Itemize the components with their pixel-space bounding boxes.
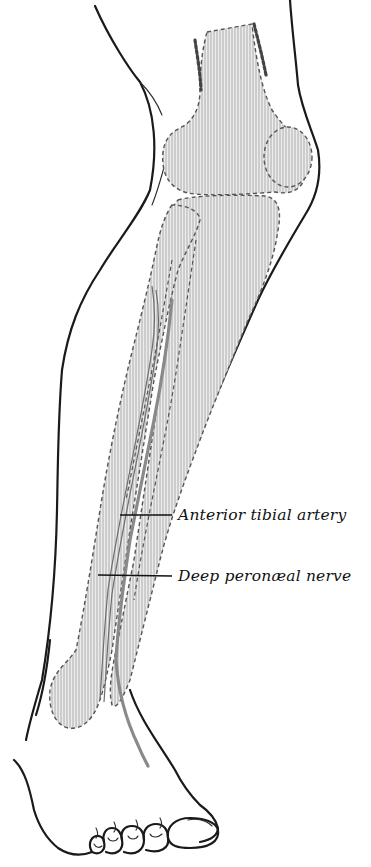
toes xyxy=(90,818,218,853)
leg-illustration xyxy=(0,0,371,867)
label-anterior-tibial-artery: Anterior tibial artery xyxy=(178,506,346,524)
leader-deep-peroneal-nerve xyxy=(98,575,172,576)
label-deep-peroneal-nerve: Deep peronæal nerve xyxy=(178,567,351,585)
foot-outline xyxy=(14,760,92,855)
patella xyxy=(264,127,312,187)
femur-edge-left xyxy=(195,40,201,90)
